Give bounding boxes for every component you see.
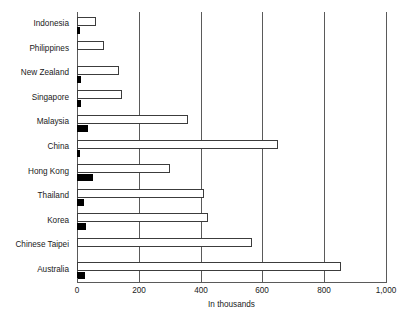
gridline: [386, 12, 387, 282]
axis-tick-label: 400: [194, 286, 208, 296]
category-label: Singapore: [0, 93, 69, 102]
category-label: Hong Kong: [0, 167, 69, 176]
axis-tick: [77, 278, 78, 283]
category-label: Indonesia: [0, 19, 69, 28]
category-label: Thailand: [0, 191, 69, 200]
bar-filled: [77, 199, 84, 206]
bar-filled: [77, 76, 81, 83]
bar-open: [77, 41, 104, 50]
bar-chart: IndonesiaPhilippinesNew ZealandSingapore…: [0, 0, 412, 321]
axis-tick: [201, 278, 202, 283]
gridline: [324, 12, 325, 282]
bar-open: [77, 115, 188, 124]
axis-tick-label: 1,000: [376, 286, 397, 296]
category-label: Chinese Taipei: [0, 240, 69, 249]
bar-filled: [77, 174, 93, 181]
bar-open: [77, 262, 341, 271]
plot-area: [77, 12, 386, 282]
bar-open: [77, 238, 252, 247]
category-label: Korea: [0, 216, 69, 225]
bar-open: [77, 164, 170, 173]
axis-tick-label: 800: [317, 286, 331, 296]
bar-open: [77, 90, 122, 99]
axis-tick-label: 200: [132, 286, 146, 296]
bar-filled: [77, 150, 80, 157]
bar-open: [77, 140, 278, 149]
bar-filled: [77, 272, 85, 279]
bar-filled: [77, 100, 81, 107]
bar-filled: [77, 125, 88, 132]
axis-tick: [262, 278, 263, 283]
axis-tick: [139, 278, 140, 283]
category-label: New Zealand: [0, 68, 69, 77]
value-axis-title: In thousands: [77, 300, 386, 309]
axis-tick: [386, 278, 387, 283]
bar-open: [77, 17, 96, 26]
bar-open: [77, 66, 119, 75]
category-label: Australia: [0, 265, 69, 274]
axis-tick-label: 600: [255, 286, 269, 296]
bar-filled: [77, 223, 86, 230]
category-label: Philippines: [0, 44, 69, 53]
bar-filled: [77, 27, 80, 34]
axis-tick-label: 0: [75, 286, 80, 296]
category-label: Malaysia: [0, 117, 69, 126]
bar-open: [77, 213, 208, 222]
axis-tick: [324, 278, 325, 283]
bar-open: [77, 189, 204, 198]
category-label: China: [0, 142, 69, 151]
value-axis-line: [77, 282, 386, 283]
category-axis: IndonesiaPhilippinesNew ZealandSingapore…: [0, 12, 73, 282]
